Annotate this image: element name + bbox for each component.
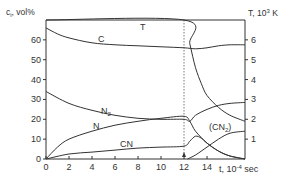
x-tick-label: 12 xyxy=(179,162,189,172)
y-left-tick-label: 50 xyxy=(31,55,41,65)
x-tick-label: 10 xyxy=(156,162,166,172)
series-line-c xyxy=(46,28,245,49)
label-N: N xyxy=(93,121,100,131)
y-right-label: T, 103 K xyxy=(248,8,278,18)
label-CN: CN xyxy=(120,139,133,149)
label-N2: N2 xyxy=(101,106,112,117)
y-left-tick-label: 0 xyxy=(36,154,41,164)
label-CN2: (CN2) xyxy=(209,122,231,133)
y-left-tick-label: 30 xyxy=(31,94,41,104)
axes xyxy=(46,20,245,159)
y-right-tick-label: 1 xyxy=(251,134,256,144)
y-left-label: ci, vol% xyxy=(6,7,35,18)
label-C: C xyxy=(98,34,105,44)
chart: 024681012140102030405060123456 ci, vol% … xyxy=(0,0,293,179)
y-right-tick-label: 5 xyxy=(251,55,256,65)
tick-labels: 024681012140102030405060123456 xyxy=(31,35,256,172)
x-tick-label: 6 xyxy=(113,162,118,172)
x-tick-label: 0 xyxy=(43,162,48,172)
ticks xyxy=(43,40,248,159)
y-left-tick-label: 10 xyxy=(31,134,41,144)
label-T: T xyxy=(140,22,146,32)
y-right-tick-label: 4 xyxy=(251,75,256,85)
x-tick-label: 2 xyxy=(66,162,71,172)
series-line-cn xyxy=(46,136,245,159)
x-tick-label: 14 xyxy=(202,162,212,172)
series xyxy=(46,18,245,159)
series-line-n2 xyxy=(46,92,245,122)
y-right-tick-label: 3 xyxy=(251,94,256,104)
y-left-tick-label: 20 xyxy=(31,114,41,124)
y-right-tick-label: 2 xyxy=(251,114,256,124)
x-tick-label: 8 xyxy=(136,162,141,172)
y-right-tick-label: 6 xyxy=(251,35,256,45)
x-axis-label: t, 10-4 sec xyxy=(219,164,259,174)
series-line-cn2 xyxy=(188,131,246,159)
y-left-tick-label: 40 xyxy=(31,75,41,85)
y-left-tick-label: 60 xyxy=(31,35,41,45)
x-tick-label: 4 xyxy=(90,162,95,172)
